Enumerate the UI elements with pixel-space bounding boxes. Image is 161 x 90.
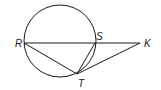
chord-RT — [24, 43, 77, 74]
label-S: S — [96, 31, 103, 42]
label-K: K — [144, 38, 152, 49]
label-T: T — [78, 78, 85, 89]
geometry-diagram: R S K T — [0, 0, 161, 90]
label-R: R — [15, 38, 22, 49]
circle — [24, 5, 96, 77]
